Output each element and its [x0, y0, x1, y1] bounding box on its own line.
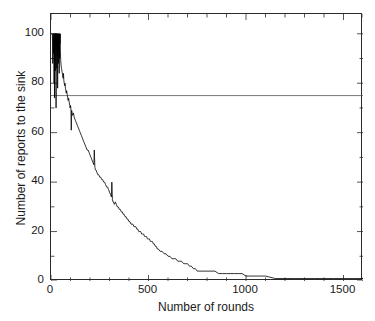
figure-chart: 020406080100 050010001500 Number of roun… [0, 0, 375, 321]
x-axis-tick-labels: 050010001500 [50, 284, 362, 300]
y-axis-title-wrap: Number of reports to the sink [13, 23, 29, 273]
y-tick-label: 20 [31, 225, 44, 237]
x-axis-title: Number of rounds [50, 300, 362, 314]
plot-area [50, 13, 362, 280]
series-line [51, 34, 363, 279]
axis-ticks [51, 14, 363, 281]
y-tick-label: 40 [31, 175, 44, 187]
x-tick-label: 500 [138, 284, 157, 296]
data-series [51, 34, 363, 279]
y-tick-label: 0 [38, 274, 44, 286]
x-tick-label: 1500 [330, 284, 356, 296]
x-tick-label: 0 [47, 284, 53, 296]
x-tick-label: 1000 [232, 284, 258, 296]
y-axis-title: Number of reports to the sink [13, 23, 29, 273]
y-tick-label: 60 [31, 126, 44, 138]
plot-svg [51, 14, 363, 281]
y-tick-label: 80 [31, 76, 44, 88]
